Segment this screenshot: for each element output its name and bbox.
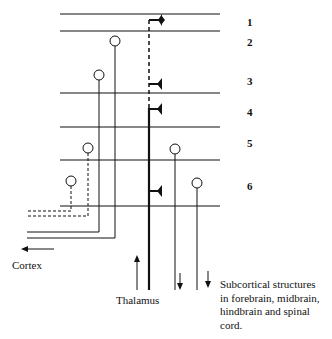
subcortical-arrow-1 <box>177 273 183 290</box>
layer-number-5: 5 <box>247 137 253 149</box>
subcortical-label: Subcortical structures in forebrain, mid… <box>220 278 320 332</box>
synapse-terminal-layer1 <box>149 14 165 26</box>
subcortical-arrow-2 <box>205 271 211 288</box>
subcortical-label-line: in forebrain, midbrain, <box>220 292 320 306</box>
thalamus-label: Thalamus <box>116 294 159 306</box>
layer-number-4: 4 <box>247 106 253 118</box>
subcortical-label-line: cord. <box>220 319 320 333</box>
layer-number-6: 6 <box>247 180 253 192</box>
neuron-layer6-right <box>192 178 202 188</box>
neuron-layer5-left <box>83 143 93 153</box>
subcortical-label-line: hindbrain and spinal <box>220 305 320 319</box>
axon-layer6-dashed <box>27 186 71 211</box>
cortex-arrow <box>21 246 54 252</box>
axon-layer2-to-cortex <box>27 46 115 238</box>
layer-number-2: 2 <box>247 36 253 48</box>
synapse-terminal-layer3 <box>149 78 162 90</box>
layer-number-3: 3 <box>247 75 253 87</box>
subcortical-label-line: Subcortical structures <box>220 278 320 292</box>
neuron-layer2 <box>110 36 120 46</box>
neuron-layer5-right <box>170 144 180 154</box>
thalamus-arrow <box>134 255 140 290</box>
neuron-layer3 <box>94 70 104 80</box>
cortex-label: Cortex <box>12 259 42 271</box>
synapse-terminal-layer6 <box>149 185 162 197</box>
synapse-terminal-layer4 <box>149 103 162 115</box>
neuron-layer6-left <box>66 176 76 186</box>
layer-number-1: 1 <box>247 16 253 28</box>
